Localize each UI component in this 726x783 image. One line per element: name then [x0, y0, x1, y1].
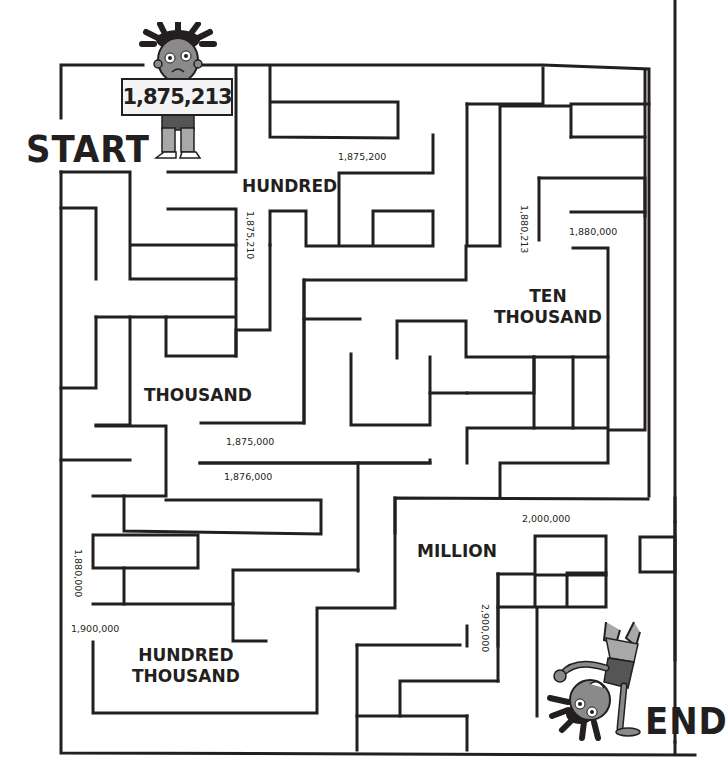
zone-label-hundred-thousand-line2: THOUSAND — [132, 666, 240, 687]
number-label-1880000-top: 1,880,000 — [569, 226, 617, 237]
zone-label-ten-thousand: TEN THOUSAND — [494, 286, 602, 328]
zone-label-million: MILLION — [417, 541, 497, 562]
number-label-1900000: 1,900,000 — [71, 623, 119, 634]
start-label: START — [26, 128, 150, 171]
number-label-1875000: 1,875,000 — [226, 436, 274, 447]
number-label-1876000: 1,876,000 — [224, 471, 272, 482]
number-label-1880213: 1,880,213 — [519, 205, 530, 253]
number-label-1875210: 1,875,210 — [245, 211, 256, 259]
number-label-1880000-left: 1,880,000 — [73, 549, 84, 597]
number-label-2000000: 2,000,000 — [522, 513, 570, 524]
number-label-1875200: 1,875,200 — [338, 151, 386, 162]
zone-label-hundred-thousand-line1: HUNDRED — [132, 645, 240, 666]
zone-label-hundred: HUNDRED — [242, 176, 337, 197]
zone-label-ten-thousand-line2: THOUSAND — [494, 307, 602, 328]
zone-label-thousand: THOUSAND — [144, 385, 252, 406]
end-character-icon — [546, 618, 646, 748]
number-sign: 1,875,213 — [121, 78, 233, 116]
end-label: END — [645, 700, 726, 743]
zone-label-ten-thousand-line1: TEN — [494, 286, 602, 307]
zone-label-hundred-thousand: HUNDRED THOUSAND — [132, 645, 240, 687]
number-label-2900000: 2,900,000 — [480, 604, 491, 652]
